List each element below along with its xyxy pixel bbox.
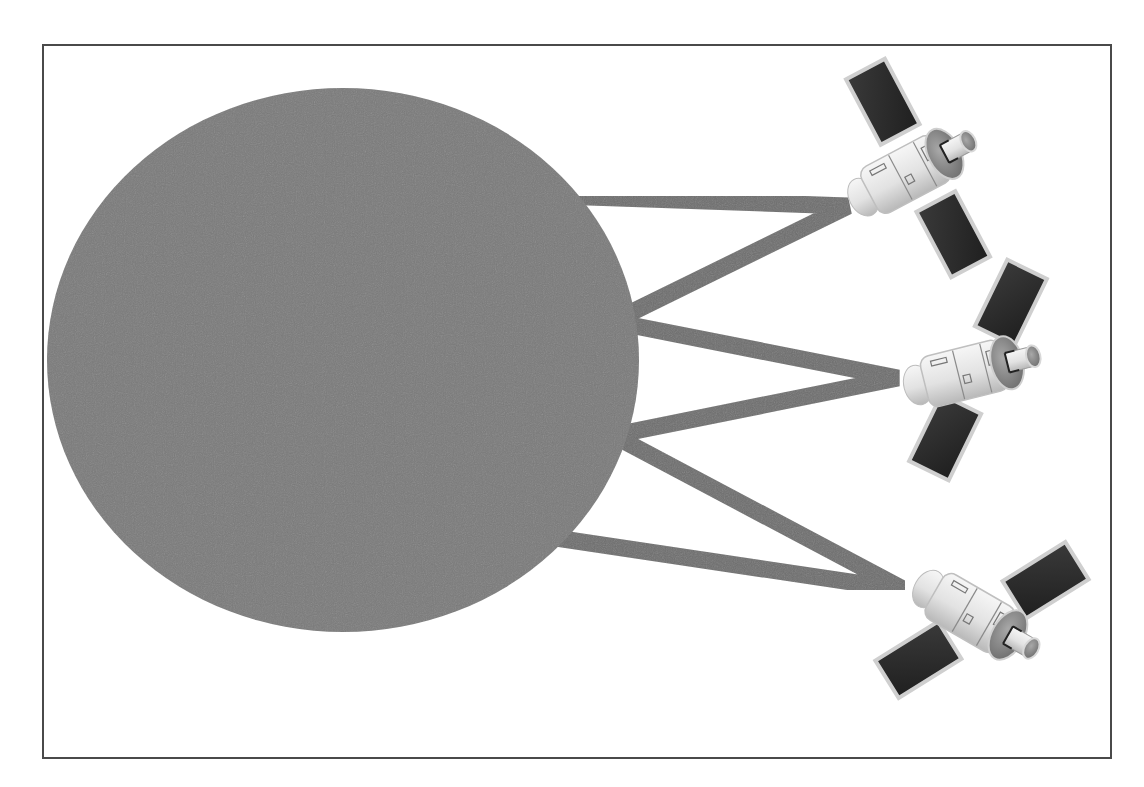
satellite-top-icon bbox=[798, 39, 1027, 303]
satellite-middle-icon bbox=[868, 252, 1089, 489]
planet-circle bbox=[47, 88, 639, 632]
satellite-bottom-icon bbox=[862, 487, 1099, 750]
link-middle bbox=[620, 324, 898, 434]
diagram-canvas bbox=[0, 0, 1144, 787]
satellite-network-diagram bbox=[0, 0, 1144, 787]
